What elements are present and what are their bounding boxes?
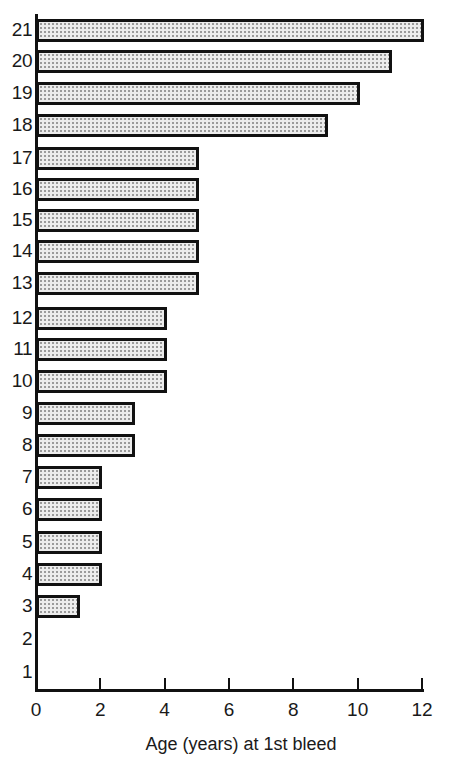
x-tick-mark [228,678,230,690]
y-tick-label: 4 [2,564,32,584]
x-tick-label: 8 [288,700,299,720]
x-tick-mark [357,678,359,690]
x-tick-label: 6 [224,700,235,720]
y-tick-label: 13 [2,273,32,293]
horizontal-bar-chart: 123456789101112131415161718192021 024681… [0,0,452,775]
y-tick-label: 1 [2,662,32,682]
y-tick-label: 7 [2,467,32,487]
x-tick-mark [421,678,423,690]
bar-20 [36,50,392,73]
y-tick-label: 3 [2,596,32,616]
y-tick-label: 8 [2,435,32,455]
bar-17 [36,147,199,170]
y-tick-label: 20 [2,51,32,71]
bar-13 [36,272,199,295]
y-tick-label: 11 [2,339,32,359]
x-tick-label: 10 [347,700,368,720]
bar-10 [36,370,167,393]
y-tick-label: 18 [2,115,32,135]
y-tick-label: 15 [2,210,32,230]
x-tick-mark [99,678,101,690]
x-tick-mark [292,678,294,690]
bar-9 [36,402,135,425]
bar-3 [36,595,80,618]
y-tick-label: 2 [2,629,32,649]
bar-21 [36,19,424,42]
x-tick-label: 0 [31,700,42,720]
bar-18 [36,114,328,137]
bar-16 [36,178,199,201]
bar-12 [36,307,167,330]
bar-5 [36,531,102,554]
x-tick-label: 2 [95,700,106,720]
y-tick-label: 21 [2,20,32,40]
bar-19 [36,82,360,105]
y-tick-label: 10 [2,371,32,391]
x-tick-mark [164,678,166,690]
y-tick-label: 12 [2,308,32,328]
y-tick-label: 19 [2,83,32,103]
x-tick-label: 4 [159,700,170,720]
bar-14 [36,240,199,263]
y-tick-label: 9 [2,403,32,423]
y-tick-label: 16 [2,179,32,199]
bar-6 [36,498,102,521]
y-tick-label: 14 [2,241,32,261]
y-tick-label: 6 [2,499,32,519]
bar-4 [36,563,102,586]
y-tick-label: 5 [2,532,32,552]
x-tick-label: 12 [411,700,432,720]
bar-15 [36,209,199,232]
bar-8 [36,434,135,457]
bar-11 [36,338,167,361]
bar-7 [36,466,102,489]
x-axis-title: Age (years) at 1st bleed [0,734,452,755]
y-tick-label: 17 [2,148,32,168]
